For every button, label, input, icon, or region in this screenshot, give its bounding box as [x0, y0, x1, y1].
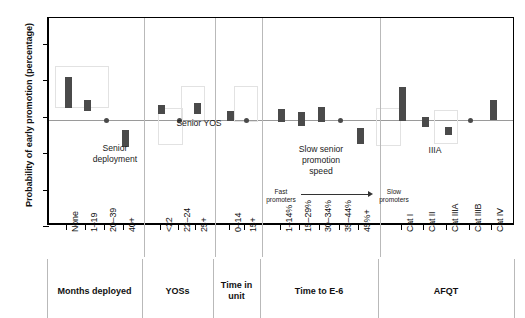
- y-tick-25: [43, 117, 49, 118]
- data-bar: [278, 109, 285, 122]
- x-axis-label-1: 1–19: [89, 213, 99, 232]
- x-axis-label-16: Cat IIIA: [450, 204, 460, 232]
- x-tick-6: [195, 225, 196, 230]
- x-axis-label-6: 25+: [199, 217, 209, 232]
- x-axis-label-4: <22: [164, 217, 174, 232]
- group-divider-4: [380, 18, 381, 257]
- y-tick-35: [43, 44, 49, 45]
- x-axis-label-14: Cat I: [405, 214, 415, 232]
- data-bar: [65, 77, 72, 108]
- annotation-fast-promoters: Fast promoters: [261, 188, 301, 204]
- x-axis-label-2: 20–39: [108, 208, 118, 232]
- y-tick-15: [43, 190, 49, 191]
- data-dot: [468, 118, 473, 123]
- x-axis-label-5: 22–24: [182, 208, 192, 232]
- promoter-arrow-line: [301, 194, 369, 195]
- x-axis-label-12: 35–44%: [343, 200, 353, 232]
- group-divider-3: [262, 18, 263, 257]
- x-axis-label-18: Cat IV: [495, 208, 505, 232]
- y-tick-20: [43, 153, 49, 154]
- x-tick-18: [491, 225, 492, 230]
- y-axis-title: Probability of early promotion (percenta…: [24, 10, 34, 220]
- x-tick-8: [244, 225, 245, 230]
- data-bar: [422, 117, 429, 126]
- x-axis-label-8: 15+: [248, 217, 258, 232]
- x-tick-4: [160, 225, 161, 230]
- annotation-senior-deployment: Senior deployment: [69, 143, 161, 165]
- x-tick-10: [299, 225, 300, 230]
- x-axis-label-3: 40+: [127, 217, 137, 232]
- annotation-slow-senior-promotion-speed: Slow senior promotion speed: [271, 144, 371, 177]
- chart-figure: Probability of early promotion (percenta…: [0, 0, 525, 318]
- group-divider-1: [144, 18, 145, 257]
- x-tick-11: [319, 225, 320, 230]
- data-bar: [357, 128, 364, 144]
- x-tick-0: [66, 225, 67, 230]
- x-tick-5: [178, 225, 179, 230]
- x-tick-14: [401, 225, 402, 230]
- x-tick-3: [123, 225, 124, 230]
- group-label-months-deployed: Months deployed: [47, 286, 142, 297]
- x-tick-17: [469, 225, 470, 230]
- group-separator-5: [514, 259, 515, 318]
- x-tick-7: [229, 225, 230, 230]
- x-axis-label-17: Cat IIIB: [473, 204, 483, 232]
- data-bar: [445, 127, 452, 135]
- x-tick-2: [104, 225, 105, 230]
- data-bar: [490, 100, 497, 120]
- annotation-senior-yos: Senior YOS: [159, 118, 239, 129]
- plot-area: Senior deployment Senior YOS Slow senior…: [47, 17, 514, 225]
- x-tick-1: [85, 225, 86, 230]
- x-axis-label-10: 15–29%: [303, 200, 313, 232]
- x-axis-label-11: 30–34%: [323, 200, 333, 232]
- data-bar: [194, 103, 201, 113]
- y-tick-10: [43, 226, 49, 227]
- data-dot: [244, 118, 249, 123]
- y-tick-30: [43, 80, 49, 81]
- x-axis-label-9: 1–14%: [284, 205, 294, 232]
- x-axis-label-0: None: [70, 211, 80, 232]
- group-label-afqt: AFQT: [378, 286, 514, 297]
- data-bar: [84, 100, 91, 112]
- highlight-box-25plus: [234, 86, 258, 122]
- x-tick-15: [423, 225, 424, 230]
- x-tick-12: [339, 225, 340, 230]
- x-tick-16: [446, 225, 447, 230]
- group-label-time-in-unit: Time in unit: [213, 280, 260, 301]
- data-bar: [318, 107, 325, 122]
- x-axis-label-7: 0–14: [233, 213, 243, 232]
- data-dot: [338, 118, 343, 123]
- promoter-arrow-head-icon: [368, 191, 373, 197]
- group-label-yoss: YOSs: [142, 286, 213, 297]
- annotation-iiia: IIIA: [405, 145, 465, 156]
- data-bar: [298, 112, 305, 126]
- highlight-box-months: [55, 66, 109, 108]
- group-label-time-to-e6: Time to E-6: [260, 286, 378, 297]
- x-axis-label-15: Cat II: [427, 212, 437, 232]
- data-bar: [399, 87, 406, 121]
- data-dot: [104, 118, 109, 123]
- group-divider-2: [215, 18, 216, 257]
- data-bar: [158, 105, 165, 114]
- annotation-slow-promoters: Slow promoters: [374, 188, 414, 204]
- x-axis-label-13: 45%+: [362, 210, 372, 232]
- x-tick-9: [280, 225, 281, 230]
- x-tick-13: [358, 225, 359, 230]
